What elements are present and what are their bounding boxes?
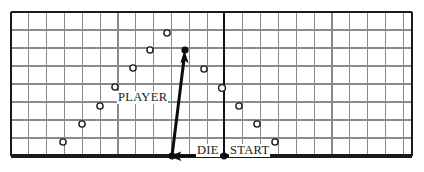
die-endpoint-dot	[169, 153, 176, 160]
figure-canvas: PLAYER DIE START	[0, 0, 424, 172]
marker-point	[219, 85, 226, 92]
label-player: PLAYER	[117, 91, 168, 104]
player-endpoint-dot	[181, 46, 188, 53]
marker-point	[79, 121, 85, 127]
marker-point	[272, 139, 278, 145]
marker-point	[254, 121, 260, 127]
marker-point	[130, 65, 136, 71]
marker-point	[60, 139, 66, 145]
marker-point	[97, 103, 103, 109]
start-endpoint-dot	[221, 153, 228, 160]
label-die: DIE	[196, 144, 220, 157]
marker-point	[236, 103, 242, 109]
label-start: START	[229, 144, 270, 157]
marker-point	[201, 66, 207, 72]
marker-point	[164, 30, 170, 36]
marker-point	[147, 47, 153, 53]
